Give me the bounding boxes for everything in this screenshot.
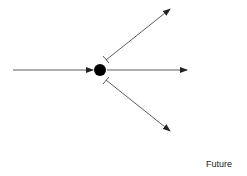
- lower-branch-tail-bar: [103, 77, 109, 84]
- present-node-dot: [94, 64, 106, 76]
- lower-branch-arrow: [106, 80, 170, 131]
- future-caption: Future: [206, 159, 232, 169]
- upper-branch-arrow: [106, 9, 170, 60]
- branching-diagram: [0, 0, 247, 176]
- upper-branch-tail-bar: [103, 56, 109, 63]
